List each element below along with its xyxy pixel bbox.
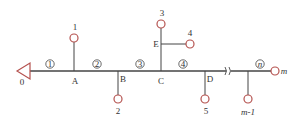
junction-label: A: [72, 76, 79, 86]
source-label: 0: [20, 77, 25, 87]
segment-marker: 2: [93, 59, 101, 69]
outlet-label: 2: [116, 106, 121, 116]
outlet-node-icon: [201, 95, 209, 103]
outlet-node-icon: [244, 95, 252, 103]
outlet-label: m-1: [241, 107, 255, 117]
svg-text:n: n: [258, 59, 263, 69]
junction-label: D: [207, 74, 214, 84]
outlet-label: 1: [73, 22, 78, 32]
pipe-network-diagram: 1 2 3 4 n 0 A B C D E 1 2 3 4 5 m-1 m: [0, 0, 302, 123]
outlet-label: 3: [160, 8, 165, 18]
svg-text:3: 3: [138, 59, 143, 69]
outlet-node-icon: [271, 67, 279, 75]
outlet-node-icon: [70, 34, 78, 42]
segment-marker: 1: [46, 59, 54, 69]
svg-text:2: 2: [95, 59, 100, 69]
segment-marker: 4: [179, 59, 187, 69]
junction-label: E: [153, 39, 159, 49]
svg-text:1: 1: [48, 59, 53, 69]
outlet-node-icon: [114, 95, 122, 103]
junction-label: B: [120, 74, 126, 84]
outlet-label: m: [281, 66, 288, 76]
junction-label: C: [158, 76, 164, 86]
outlet-label: 5: [204, 106, 209, 116]
segment-marker: n: [256, 59, 264, 69]
segment-marker: 3: [136, 59, 144, 69]
svg-text:4: 4: [181, 59, 186, 69]
outlet-node-icon: [186, 40, 194, 48]
outlet-node-icon: [157, 20, 165, 28]
outlet-label: 4: [188, 28, 193, 38]
